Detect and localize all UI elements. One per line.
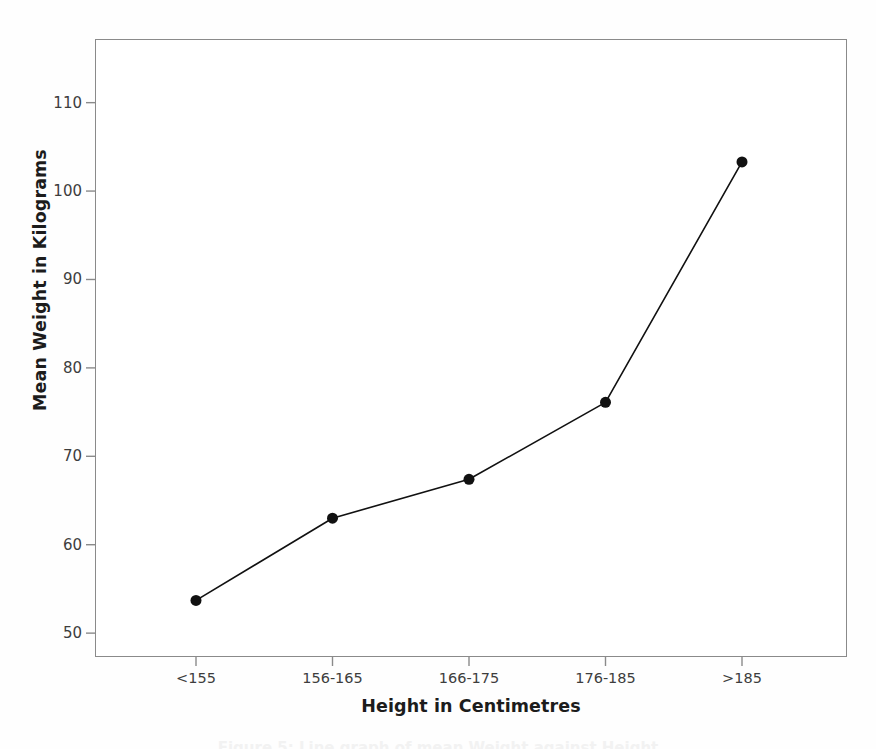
x-tick-label: >185 [722,670,762,686]
y-tick-label: 50 [63,624,82,642]
chart-figure: Mean Weight in Kilograms 506070809010011… [0,0,876,749]
x-tick-label: 166-175 [439,670,500,686]
x-tick-label: 176-185 [575,670,636,686]
x-axis-title: Height in Centimetres [95,696,847,716]
plot-area [95,39,847,657]
y-tick-label: 60 [63,536,82,554]
figure-caption: Figure 5: Line graph of mean Weight agai… [0,739,876,749]
y-tick-label: 90 [63,270,82,288]
y-axis-tick-labels: 5060708090100110 [0,0,82,749]
x-tick-label: 156-165 [302,670,363,686]
y-tick-label: 100 [53,182,82,200]
x-tick-label: <155 [176,670,216,686]
y-tick-label: 70 [63,447,82,465]
y-tick-label: 80 [63,359,82,377]
y-tick-label: 110 [53,94,82,112]
